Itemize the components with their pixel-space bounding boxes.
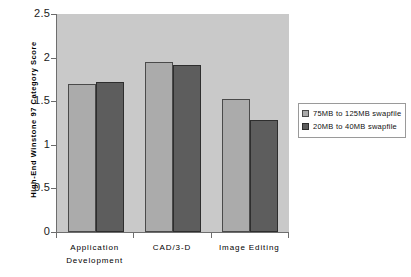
x-axis-tick-mark xyxy=(288,233,289,238)
x-axis-tick-mark xyxy=(133,233,134,238)
bars-layer xyxy=(57,14,289,232)
y-axis-tick-label: 0.5 xyxy=(2,182,50,193)
y-axis-tick-mark xyxy=(51,145,56,146)
y-axis-tick-label: 0 xyxy=(2,226,50,237)
legend-label: 20MB to 40MB swapfile xyxy=(313,122,397,131)
category-label-line: Application xyxy=(56,241,133,254)
y-axis-tick-label: 1.5 xyxy=(2,95,50,106)
x-axis-category-label: Image Editing xyxy=(211,241,288,254)
y-axis-tick-labels: 00.511.522.5 xyxy=(0,0,50,277)
category-label-line: CAD/3-D xyxy=(133,241,210,254)
y-axis-tick-mark xyxy=(51,101,56,102)
x-axis-category-label: CAD/3-D xyxy=(133,241,210,254)
legend-swatch-icon xyxy=(302,123,309,130)
legend-label: 75MB to 125MB swapfile xyxy=(313,109,401,118)
legend-item: 20MB to 40MB swapfile xyxy=(302,120,402,133)
x-axis-tick-mark xyxy=(211,233,212,238)
legend-swatch-icon xyxy=(302,110,309,117)
legend-item: 75MB to 125MB swapfile xyxy=(302,107,402,120)
x-axis-category-labels: ApplicationDevelopmentCAD/3-DImage Editi… xyxy=(56,241,288,275)
plot-area xyxy=(56,14,289,233)
y-axis-tick-label: 2 xyxy=(2,52,50,63)
x-axis-tick-mark xyxy=(56,233,57,238)
y-axis-tick-label: 1 xyxy=(2,139,50,150)
bar-0-0 xyxy=(68,84,96,232)
y-axis-tick-label: 2.5 xyxy=(2,8,50,19)
y-axis-tick-mark xyxy=(51,58,56,59)
bar-2-0 xyxy=(222,99,250,232)
bar-0-1 xyxy=(96,82,124,232)
bar-1-0 xyxy=(145,62,173,232)
chart-legend: 75MB to 125MB swapfile20MB to 40MB swapf… xyxy=(298,103,406,138)
bar-2-1 xyxy=(250,120,278,232)
bar-chart: High-End Winstone 97 Category Score 00.5… xyxy=(0,0,411,277)
y-axis-tick-mark xyxy=(51,14,56,15)
category-label-line: Image Editing xyxy=(211,241,288,254)
category-label-line: Development xyxy=(56,254,133,267)
x-axis-category-label: ApplicationDevelopment xyxy=(56,241,133,267)
y-axis-tick-mark xyxy=(51,188,56,189)
bar-1-1 xyxy=(173,65,201,232)
